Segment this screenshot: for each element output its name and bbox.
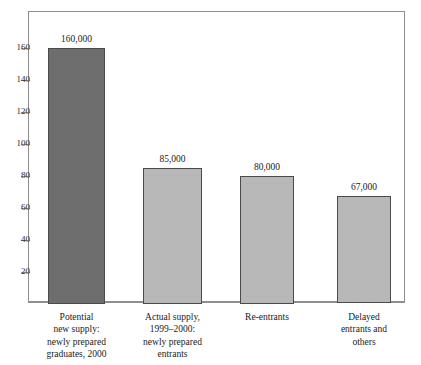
category-label-line: Re-entrants	[212, 311, 322, 323]
y-axis-tick-group: 160	[0, 48, 30, 49]
y-axis-tick-label: 40	[12, 235, 30, 244]
category-label-line: Potential	[22, 311, 132, 323]
category-label: Delayedentrants andothers	[314, 311, 414, 348]
y-axis-tick-group: 60	[0, 208, 30, 209]
bar-value-label: 85,000	[123, 154, 222, 165]
y-axis-tick-label: 100	[12, 139, 30, 148]
category-label-line: others	[314, 336, 414, 348]
y-axis-tick-label: 120	[12, 107, 30, 116]
category-label-line: entrants and	[314, 323, 414, 335]
category-label-line: entrants	[118, 348, 228, 360]
y-axis-tick-label: 140	[12, 75, 30, 84]
y-axis-tick-label: 80	[12, 171, 30, 180]
category-label: Actual supply,1999–2000:newly prepareden…	[118, 311, 228, 360]
category-label-line: Delayed	[314, 311, 414, 323]
category-label-line: newly prepared	[118, 336, 228, 348]
bar	[240, 176, 294, 304]
category-label-line: graduates, 2000	[22, 348, 132, 360]
category-label-line: newly prepared	[22, 336, 132, 348]
y-axis-tick-group: 40	[0, 240, 30, 241]
category-label-line: Actual supply,	[118, 311, 228, 323]
y-axis-tick-group: 120	[0, 112, 30, 113]
y-axis-tick-group: 80	[0, 176, 30, 177]
y-axis-tick-group: 100	[0, 144, 30, 145]
bar	[48, 48, 105, 304]
y-axis-tick-label: 20	[12, 267, 30, 276]
category-label: Potentialnew supply:newly preparedgradua…	[22, 311, 132, 360]
bar	[143, 168, 202, 304]
bar-value-label: 67,000	[317, 182, 411, 193]
bar-value-label: 80,000	[220, 162, 314, 173]
bar-chart: 20406080100120140160 160,00085,00080,000…	[0, 0, 421, 365]
category-label-line: new supply:	[22, 323, 132, 335]
category-label-line: 1999–2000:	[118, 323, 228, 335]
category-label: Re-entrants	[212, 311, 322, 323]
bar-value-label: 160,000	[28, 34, 125, 45]
y-axis-tick-group: 20	[0, 272, 30, 273]
y-axis-tick-label: 60	[12, 203, 30, 212]
bar	[337, 196, 391, 303]
y-axis-tick-group: 140	[0, 80, 30, 81]
